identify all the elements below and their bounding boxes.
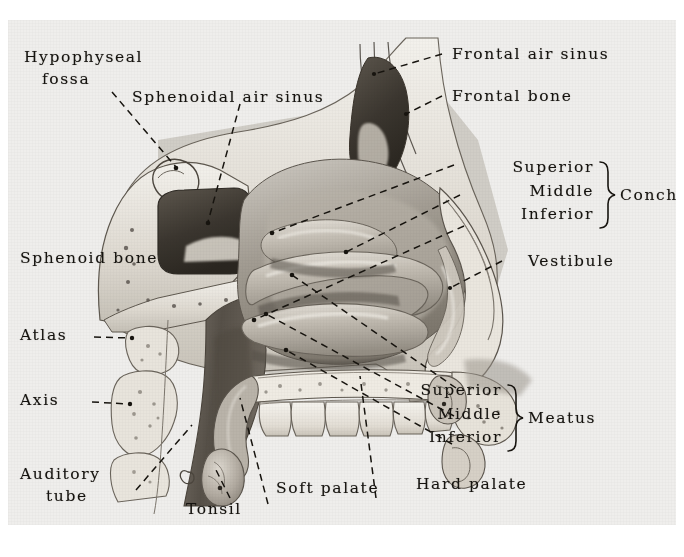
label-vestibule: Vestibule — [528, 252, 615, 272]
label-frontal-bone: Frontal bone — [452, 87, 572, 107]
label-atlas: Atlas — [20, 326, 67, 346]
figure-page: Hypophyseal fossa Sphenoidal air sinus S… — [0, 0, 684, 557]
label-sphenoidal-air-sinus: Sphenoidal air sinus — [132, 88, 324, 108]
label-hypophyseal-fossa-line2: fossa — [42, 70, 90, 90]
label-superior-concha: Superior — [512, 156, 594, 180]
label-middle-meatus: Middle — [438, 403, 502, 427]
label-concha-group: Concha — [620, 186, 676, 204]
label-superior-meatus: Superior — [420, 379, 502, 403]
label-hypophyseal-fossa-line1: Hypophyseal — [24, 48, 143, 68]
label-tonsil: Tonsil — [186, 500, 242, 520]
label-axis: Axis — [20, 391, 59, 411]
label-auditory-tube-line2: tube — [46, 487, 88, 507]
label-inferior-concha: Inferior — [521, 203, 594, 227]
label-meatus-group: Meatus — [528, 409, 596, 427]
anatomy-illustration — [8, 20, 676, 525]
concha-label-stack: Superior Middle Inferior — [466, 156, 594, 227]
label-inferior-meatus: Inferior — [429, 426, 502, 450]
label-middle-concha: Middle — [530, 180, 594, 204]
label-sphenoid-bone: Sphenoid bone — [20, 249, 158, 269]
label-soft-palate: Soft palate — [276, 479, 379, 499]
meatus-label-stack: Superior Middle Inferior — [374, 379, 502, 450]
scanned-plate: Hypophyseal fossa Sphenoidal air sinus S… — [8, 20, 676, 525]
label-frontal-air-sinus: Frontal air sinus — [452, 45, 609, 65]
label-hard-palate: Hard palate — [416, 475, 527, 495]
label-auditory-tube-line1: Auditory — [20, 465, 101, 485]
